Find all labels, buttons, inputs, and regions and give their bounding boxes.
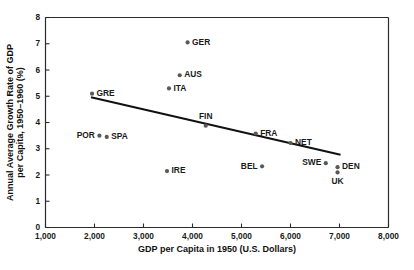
data-point-label-fin: FIN bbox=[199, 111, 213, 121]
data-point-label-por: POR bbox=[77, 130, 95, 140]
y-tick-label-5: 5 bbox=[35, 91, 40, 101]
data-point-label-net: NET bbox=[295, 137, 313, 147]
x-tick-label-7000: 7,000 bbox=[329, 231, 350, 241]
y-tick-label-3: 3 bbox=[35, 143, 40, 153]
data-point-marker-spa bbox=[105, 135, 109, 139]
x-tick-label-1000: 1,000 bbox=[35, 231, 56, 241]
chart-canvas: 0123456781,0002,0003,0004,0005,0006,0007… bbox=[0, 0, 414, 270]
data-point-label-uk: UK bbox=[331, 176, 343, 186]
x-tick-label-5000: 5,000 bbox=[231, 231, 252, 241]
data-point-marker-den bbox=[335, 165, 339, 169]
data-point-label-ger: GER bbox=[192, 37, 210, 47]
data-point-label-ita: ITA bbox=[173, 83, 186, 93]
y-tick-label-7: 7 bbox=[35, 38, 40, 48]
data-points: GREPORSPAIREITAAUSGERFINFRABELNETSWEDENU… bbox=[77, 37, 360, 186]
y-tick-label-1: 1 bbox=[35, 196, 40, 206]
x-tick-label-8000: 8,000 bbox=[378, 231, 399, 241]
x-tick-label-3000: 3,000 bbox=[133, 231, 154, 241]
data-point-marker-ita bbox=[167, 86, 171, 90]
data-point-label-ire: IRE bbox=[172, 165, 186, 175]
y-tick-label-2: 2 bbox=[35, 170, 40, 180]
data-point-marker-uk bbox=[335, 170, 339, 174]
data-point-marker-ire bbox=[165, 169, 169, 173]
x-tick-label-6000: 6,000 bbox=[280, 231, 301, 241]
data-point-marker-fra bbox=[254, 131, 258, 135]
data-point-label-gre: GRE bbox=[97, 88, 116, 98]
data-point-label-swe: SWE bbox=[302, 157, 321, 167]
data-point-marker-ger bbox=[186, 40, 190, 44]
data-point-marker-aus bbox=[178, 73, 182, 77]
data-point-label-aus: AUS bbox=[184, 69, 202, 79]
data-point-marker-por bbox=[97, 134, 101, 138]
data-point-marker-fin bbox=[204, 124, 208, 128]
scatter-chart-figure: 0123456781,0002,0003,0004,0005,0006,0007… bbox=[0, 0, 414, 270]
data-point-marker-net bbox=[288, 141, 292, 145]
y-tick-label-6: 6 bbox=[35, 65, 40, 75]
x-tick-label-4000: 4,000 bbox=[182, 231, 203, 241]
data-point-marker-bel bbox=[260, 164, 264, 168]
y-tick-label-4: 4 bbox=[35, 117, 40, 127]
data-point-label-fra: FRA bbox=[260, 128, 277, 138]
data-point-label-spa: SPA bbox=[111, 131, 128, 141]
y-axis-title-line2: per Capita, 1950–1960 (%) bbox=[15, 67, 25, 178]
data-point-label-bel: BEL bbox=[241, 161, 258, 171]
x-axis-title: GDP per Capita in 1950 (U.S. Dollars) bbox=[138, 244, 296, 254]
data-point-marker-gre bbox=[90, 92, 94, 96]
y-tick-label-8: 8 bbox=[35, 12, 40, 22]
x-tick-label-2000: 2,000 bbox=[84, 231, 105, 241]
data-point-marker-swe bbox=[324, 161, 328, 165]
data-point-label-den: DEN bbox=[342, 161, 360, 171]
y-axis-title-line1: Annual Average Growth Rate of GDP bbox=[5, 44, 15, 201]
